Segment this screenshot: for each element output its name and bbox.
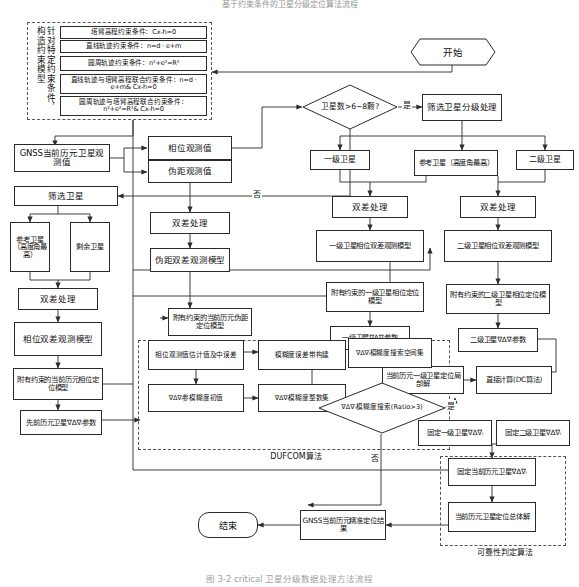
node-constrained-pseudorange-position: 附有约束的当前历元伪距定位模型: [168, 308, 252, 336]
constraint-item-circle-track: 圆周轨迹约束条件：n²+e²=R²: [60, 56, 207, 71]
node-ambiguity-search-space: ∇Δ∇ᵢ模糊度搜索空间集: [348, 338, 432, 368]
node-phase-dd-model-grade1: 一级卫星相位双差观测模型: [316, 230, 424, 262]
constraint-item-tower-height: 塔臂高程约束条件：Cx-h=0: [60, 26, 207, 39]
node-previous-epoch-params: 先前历元卫星∇Δ∇ᵢ参数: [20, 410, 102, 435]
decision-satellite-count[interactable]: 卫星数>6~8颗?: [302, 84, 398, 130]
node-reference-satellite-right: 参考卫星（高度角最高）: [414, 150, 498, 176]
node-phase-estimate-value: 相位观测值估计值及中误差: [148, 340, 244, 370]
edge-label-yes-ambiguity: 是: [446, 400, 456, 411]
node-ambiguity-error-band: 模糊度误差带构建: [258, 340, 346, 370]
constraint-group-vertical-label: 针对特定约束条件，构造约束模型: [31, 26, 57, 116]
node-phase-dd-model-grade2: 二级卫星相位双差观测模型: [444, 230, 552, 262]
node-double-difference-grade2: 双差处理: [460, 196, 536, 218]
node-phase-dd-model-left: 相位双差观测模型: [14, 322, 102, 356]
node-phase-observation: 相位观测值: [148, 136, 232, 160]
edge-label-no-satcount: 否: [252, 188, 262, 199]
node-grade2-params: 二级卫星∇Δ∇ᵢ参数: [458, 328, 538, 352]
constraint-item-line-track: 直线轨迹约束条件：n=d · e+m: [60, 40, 207, 53]
node-double-difference-left: 双差处理: [18, 288, 98, 310]
end-label: 结束: [219, 519, 237, 532]
node-double-difference-center: 双差处理: [150, 212, 230, 234]
decision-satellite-count-label: 卫星数>6~8颗?: [316, 89, 384, 125]
node-reference-satellite-left: 参考卫星（高度角最高）: [10, 222, 50, 272]
node-remaining-satellite: 剩余卫星: [70, 222, 110, 272]
node-constrained-grade1-model: 附有约束的一级卫星相位定位模型: [326, 282, 424, 312]
node-constrained-grade2-model: 附有约束的二级卫星相位定位模型: [446, 284, 550, 314]
node-constrained-phase-position-left: 附有约束的当前历元相位定位模型: [13, 368, 103, 400]
reliability-algorithm-label: 可靠性判定算法: [442, 546, 568, 557]
end-terminator: 结束: [198, 512, 258, 538]
node-gnss-precise-result: GNSS当前历元精准定位结果: [300, 510, 386, 540]
node-overall-positioning-solution: 当前历元卫星定位总体解: [448, 502, 536, 532]
node-first-grade-satellite: 一级卫星: [310, 150, 370, 170]
node-pseudorange-dd-model: 伪距双差观测模型: [150, 248, 230, 272]
node-direct-calculation: 直接计算(DC算法): [476, 366, 552, 394]
edge-label-yes-satcount: 是: [402, 99, 412, 110]
constraint-item-circle-and-height: 圆周轨迹与塔臂高程联合约束条件：n²+e²=R²& Cx-h=0: [60, 96, 207, 116]
start-terminator: 开始: [410, 38, 496, 66]
edge-label-no-ambiguity: 否: [370, 452, 380, 463]
node-fix-current-epoch-ambiguity: 固定当前历元卫星∇Δ∇ᵢ: [448, 458, 536, 486]
decision-ambiguity-search-label: ∇Δ∇ᵢ模糊度搜索(Ratio>3): [340, 390, 424, 426]
node-second-grade-satellite: 二级卫星: [516, 150, 574, 170]
node-pseudorange-observation: 伪距观测值: [148, 160, 232, 183]
node-satellite-filter-grading: 筛选卫星分级处理: [422, 94, 502, 121]
dufcom-algorithm-label: DUFCOM算法: [242, 450, 350, 461]
figure-bottom-caption: 图 3-2 critical 卫星分级数据处理方法流程: [0, 572, 579, 584]
constraint-item-line-and-height: 直线轨迹与塔臂高程联合约束条件：n=d · e+m& Cx-h=0: [60, 74, 207, 94]
start-label: 开始: [410, 38, 496, 66]
node-double-difference-grade1: 双差处理: [332, 196, 408, 218]
decision-ambiguity-search[interactable]: ∇Δ∇ᵢ模糊度搜索(Ratio>3): [318, 382, 446, 434]
flowchart-canvas: 基于约束条件的卫星分级定位算法流程 针对特定约束条件，构造约束模型 塔臂高程约束…: [0, 0, 579, 587]
node-fix-grade2-ambiguity: 固定二级卫星∇Δ∇ᵢ: [496, 420, 570, 446]
figure-top-caption: 基于约束条件的卫星分级定位算法流程: [0, 0, 579, 9]
node-gnss-observation: GNSS当前历元卫星观测值: [14, 144, 110, 172]
node-ambiguity-initial-value: ∇Δ∇ᵢ参模糊度初值: [148, 384, 244, 412]
node-filter-satellite: 筛选卫星: [14, 186, 118, 206]
